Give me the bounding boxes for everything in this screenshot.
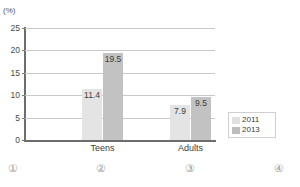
legend-label: 2011 [242,116,259,124]
bar-value-label: 9.5 [191,99,211,108]
bar-value-label: 11.4 [82,91,102,100]
gridline [25,50,215,51]
y-tick-label: 15 [0,69,20,78]
bar-value-label: 19.5 [103,55,123,64]
answer-choice-3[interactable]: ③ [185,163,195,174]
y-tick-mark [22,140,25,141]
legend-swatch [232,127,240,134]
y-tick-label: 0 [0,136,20,145]
gridline [25,28,215,29]
category-label: Adults [160,144,221,153]
bar-value-label: 7.9 [170,107,190,116]
category-label: Teens [72,144,133,153]
y-tick-label: 20 [0,46,20,55]
bar: 19.5 [103,53,123,140]
legend-label: 2013 [242,126,260,134]
bar: 9.5 [191,97,211,140]
bar: 7.9 [170,105,190,140]
chart-legend: 20112013 [228,112,276,138]
y-tick-label: 25 [0,24,20,33]
legend-item: 2011 [232,115,272,125]
y-tick-label: 10 [0,91,20,100]
answer-choice-markers: ①②③④ [0,163,300,187]
legend-swatch [232,117,240,124]
y-tick-label: 5 [0,114,20,123]
bar: 11.4 [82,89,102,140]
answer-choice-4[interactable]: ④ [274,163,284,174]
legend-item: 2013 [232,125,272,135]
plot-area: 11.419.57.99.5 [25,28,215,140]
y-axis-unit-label: (%) [3,6,15,15]
bar-chart-figure: (%) 2520151050 11.419.57.99.5 TeensAdult… [0,0,300,160]
answer-choice-2[interactable]: ② [96,163,106,174]
answer-choice-1[interactable]: ① [8,163,18,174]
